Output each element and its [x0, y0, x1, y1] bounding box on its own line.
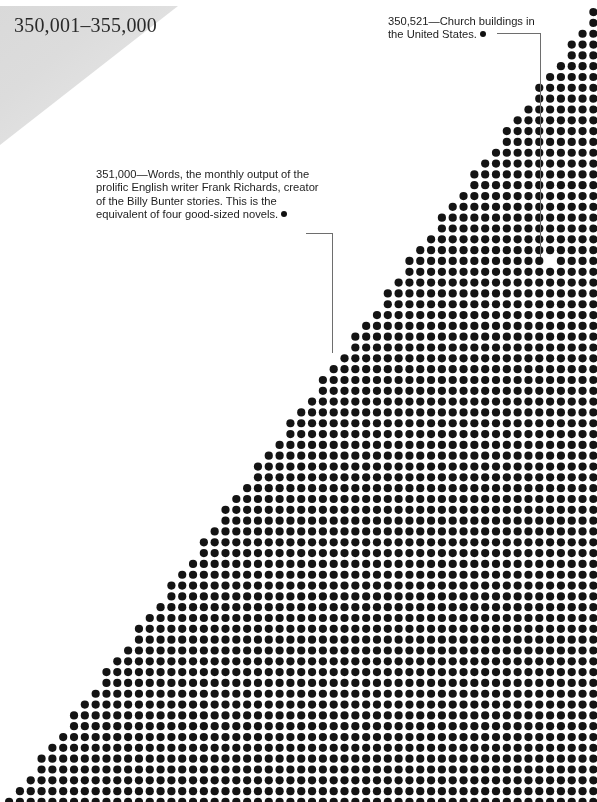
leader-line-words-vertical — [332, 233, 333, 353]
annotation-words-line-4-text: equivalent of four good-sized novels. — [96, 208, 278, 220]
annotation-bullet-icon — [480, 31, 486, 37]
annotation-church-buildings: 350,521—Church buildings in the United S… — [388, 15, 535, 42]
annotation-frank-richards-words: 351,000—Words, the monthly output of the… — [96, 168, 319, 222]
annotation-bullet-icon — [281, 211, 287, 217]
page-title: 350,001–355,000 — [14, 14, 157, 37]
annotation-church-line-1: 350,521—Church buildings in — [388, 15, 535, 28]
leader-line-church-vertical — [540, 33, 541, 257]
page-root: 350,001–355,000 350,521—Church buildings… — [0, 0, 597, 802]
leader-line-words-horizontal — [306, 233, 333, 234]
annotation-words-line-1: 351,000—Words, the monthly output of the — [96, 168, 319, 181]
dot-field-chart — [0, 0, 597, 802]
annotation-words-line-3: of the Billy Bunter stories. This is the — [96, 195, 319, 208]
annotation-church-line-2-text: the United States. — [388, 28, 477, 40]
annotation-words-line-4: equivalent of four good-sized novels. — [96, 208, 319, 221]
annotation-church-line-2: the United States. — [388, 28, 535, 41]
annotation-words-line-2: prolific English writer Frank Richards, … — [96, 181, 319, 194]
leader-line-church-horizontal — [497, 33, 541, 34]
